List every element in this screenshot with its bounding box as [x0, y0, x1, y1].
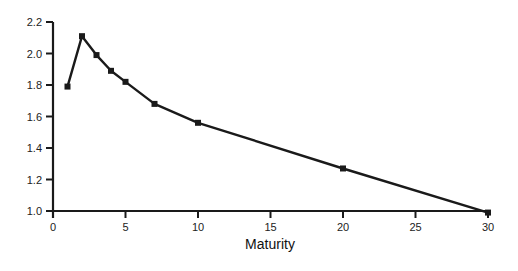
x-tick-label: 0 — [50, 221, 56, 233]
x-tick-label: 10 — [192, 221, 204, 233]
x-tick-label: 20 — [337, 221, 349, 233]
y-tick-label: 2.0 — [27, 48, 42, 60]
data-point-marker — [123, 79, 129, 85]
data-point-marker — [79, 33, 85, 39]
x-axis: 051015202530 — [46, 211, 494, 233]
x-tick-label: 30 — [482, 221, 494, 233]
y-tick-label: 1.4 — [27, 142, 42, 154]
y-tick-label: 1.6 — [27, 111, 42, 123]
y-tick-label: 1.8 — [27, 79, 42, 91]
y-axis: 1.01.21.41.61.82.02.2 — [27, 16, 53, 218]
data-point-marker — [65, 84, 71, 90]
data-point-marker — [195, 120, 201, 126]
plot-area — [65, 33, 492, 215]
x-axis-title: Maturity — [245, 236, 295, 252]
x-tick-label: 5 — [122, 221, 128, 233]
data-line — [68, 36, 489, 212]
data-point-marker — [485, 210, 491, 216]
y-tick-label: 1.2 — [27, 174, 42, 186]
y-tick-label: 1.0 — [27, 205, 42, 217]
y-tick-label: 2.2 — [27, 16, 42, 28]
data-point-marker — [94, 52, 100, 58]
data-point-marker — [152, 101, 158, 107]
data-point-marker — [340, 165, 346, 171]
data-point-marker — [108, 68, 114, 74]
line-chart: 1.01.21.41.61.82.02.2 051015202530 Matur… — [0, 0, 518, 271]
x-tick-label: 25 — [409, 221, 421, 233]
x-tick-label: 15 — [264, 221, 276, 233]
